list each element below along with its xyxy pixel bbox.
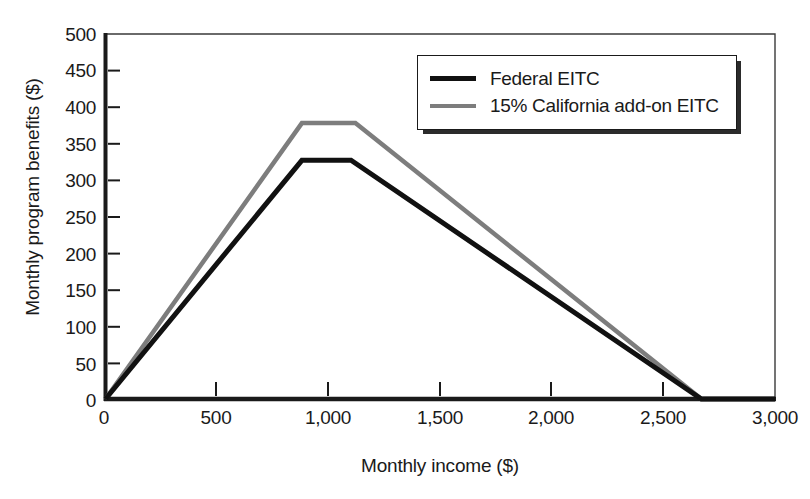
legend-swatch-icon-california bbox=[430, 104, 476, 108]
legend-label: Federal EITC bbox=[490, 68, 599, 90]
legend-swatch-icon-federal bbox=[430, 76, 476, 81]
series-line-federal-eitc bbox=[106, 160, 776, 399]
legend-item-federal-eitc: Federal EITC bbox=[430, 65, 724, 92]
legend-label: 15% California add-on EITC bbox=[490, 95, 719, 117]
chart-legend: Federal EITC 15% California add-on EITC bbox=[417, 55, 737, 130]
y-axis-ticks bbox=[108, 71, 120, 364]
x-axis-ticks bbox=[216, 382, 663, 396]
eitc-benefit-schedule-chart: Monthly program benefits ($) 500 450 400… bbox=[0, 0, 810, 499]
x-axis-title: Monthly income ($) bbox=[104, 455, 776, 477]
legend-item-california-add-on-eitc: 15% California add-on EITC bbox=[430, 92, 724, 119]
series-line-california-add-on-eitc bbox=[106, 123, 776, 399]
